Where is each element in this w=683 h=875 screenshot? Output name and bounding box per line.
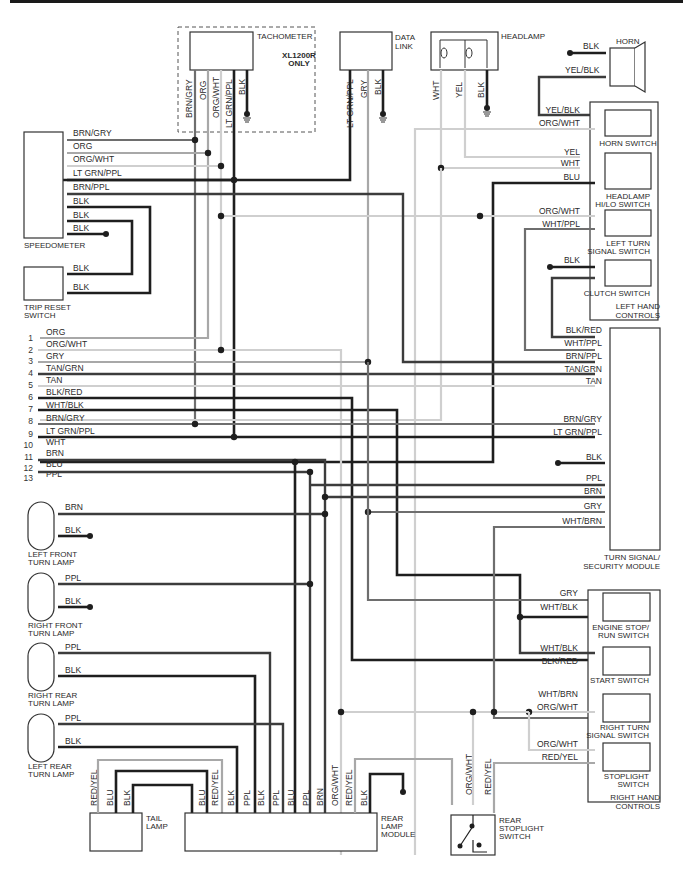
- ground-symbol-icon: [483, 112, 491, 116]
- wire-org-tach: [40, 70, 208, 338]
- svg-text:BRN/GRY: BRN/GRY: [563, 414, 602, 424]
- svg-text:LT GRN/PPL: LT GRN/PPL: [553, 427, 602, 437]
- svg-text:TURN LAMP: TURN LAMP: [28, 699, 74, 708]
- switch-contact: [470, 824, 475, 829]
- horn-box: [610, 48, 635, 86]
- svg-text:LT GRN/PPL: LT GRN/PPL: [46, 426, 95, 436]
- speedometer-label: SPEEDOMETER: [24, 241, 86, 250]
- splice: [322, 494, 328, 500]
- tail-pin-label: BLU: [105, 789, 115, 806]
- svg-text:8: 8: [28, 416, 33, 426]
- svg-text:BLK: BLK: [73, 210, 89, 220]
- svg-text:BLU: BLU: [197, 789, 207, 806]
- trip-reset-label-2: SWITCH: [24, 311, 56, 320]
- speedometer-box: [24, 132, 63, 238]
- clutch-switch-box: [605, 260, 651, 286]
- ground-rf: [87, 604, 93, 610]
- svg-text:WHT/PPL: WHT/PPL: [564, 338, 602, 348]
- svg-text:ORG: ORG: [46, 327, 65, 337]
- svg-text:WHT/BRN: WHT/BRN: [538, 689, 578, 699]
- svg-text:TAN/GRN: TAN/GRN: [564, 364, 602, 374]
- rhc-wire-labels: GRY WHT/BLK WHT/BLK BLK/RED WHT/BRN ORG/…: [537, 588, 578, 762]
- svg-text:BLU: BLU: [563, 172, 580, 182]
- splice: [322, 511, 328, 517]
- svg-text:5: 5: [28, 380, 33, 390]
- splice: [307, 469, 313, 475]
- splice: [218, 213, 224, 219]
- svg-text:9: 9: [28, 429, 33, 439]
- svg-text:WHT/BLK: WHT/BLK: [46, 400, 84, 410]
- left-turn-label-2: SIGNAL SWITCH: [587, 247, 650, 256]
- svg-text:BRN: BRN: [65, 502, 83, 512]
- svg-text:WHT/BLK: WHT/BLK: [540, 602, 578, 612]
- svg-text:ORG/WHT: ORG/WHT: [330, 765, 340, 806]
- splice: [517, 614, 523, 620]
- trip-wire-label: BLK: [73, 282, 89, 292]
- ground-clutch: [547, 264, 553, 270]
- svg-text:BRN/PPL: BRN/PPL: [566, 351, 603, 361]
- lhc-label-2: CONTROLS: [616, 311, 660, 320]
- svg-text:GRY: GRY: [46, 351, 65, 361]
- ground-tssm: [555, 460, 561, 466]
- svg-text:6: 6: [28, 392, 33, 402]
- svg-text:7: 7: [28, 404, 33, 414]
- rlm-label-3: MODULE: [381, 830, 415, 839]
- svg-text:BLK: BLK: [237, 79, 247, 95]
- svg-text:13: 13: [24, 473, 34, 483]
- xl-note-2: ONLY: [288, 59, 310, 68]
- splice: [231, 434, 237, 440]
- svg-text:RED/YEL: RED/YEL: [210, 769, 220, 806]
- rhc-label-2: CONTROLS: [616, 802, 660, 811]
- right-turn-label-2: SIGNAL SWITCH: [586, 731, 649, 740]
- wire-blk-tail: [133, 785, 192, 813]
- stoplight-switch-box: [603, 743, 650, 771]
- svg-text:12: 12: [24, 463, 34, 473]
- svg-text:BLK: BLK: [586, 452, 602, 462]
- svg-text:BLK: BLK: [65, 525, 81, 535]
- rear-lamp-module-box: [185, 813, 377, 851]
- wiring-diagram: TACHOMETER XL1200R ONLY BRN/GRY ORG ORG/…: [0, 0, 683, 875]
- horn-switch-label: HORN SWITCH: [599, 139, 657, 148]
- trip-reset-box: [24, 267, 63, 300]
- ground-symbol-icon: [243, 118, 251, 122]
- start-switch-box: [603, 647, 650, 675]
- svg-text:TAN: TAN: [586, 376, 602, 386]
- connector-row-numbers: 1 2 3 4 5 6 7 8 9 10 11 12 13: [24, 333, 34, 483]
- data-link-label: DATA: [395, 33, 416, 42]
- svg-text:ORG: ORG: [198, 81, 208, 100]
- svg-text:GRY: GRY: [560, 588, 579, 598]
- horn-pin-label: BLK: [583, 41, 599, 51]
- ground-datalink: [380, 111, 386, 117]
- svg-text:GRY: GRY: [584, 501, 603, 511]
- svg-text:YEL: YEL: [564, 147, 580, 157]
- svg-text:RED/YEL: RED/YEL: [344, 769, 354, 806]
- svg-text:BLK: BLK: [73, 196, 89, 206]
- splice: [192, 137, 198, 143]
- ground-rlm: [400, 789, 406, 795]
- svg-text:BRN/GRY: BRN/GRY: [73, 128, 112, 138]
- svg-text:BLK: BLK: [359, 790, 369, 806]
- svg-text:BRN: BRN: [46, 448, 64, 458]
- wire-blk-rlm-ground: [370, 774, 403, 813]
- headlamp-pin-label: YEL: [454, 82, 464, 98]
- tachometer-label: TACHOMETER: [257, 32, 313, 41]
- svg-text:ORG/WHT: ORG/WHT: [539, 118, 580, 128]
- clutch-label: CLUTCH SWITCH: [584, 289, 650, 298]
- svg-text:TURN LAMP: TURN LAMP: [28, 558, 74, 567]
- svg-text:BLK/RED: BLK/RED: [542, 656, 578, 666]
- svg-text:10: 10: [24, 440, 34, 450]
- wire-gry-to-engine-stop: [368, 362, 595, 600]
- start-label: START SWITCH: [590, 676, 649, 685]
- svg-text:ORG/WHT: ORG/WHT: [211, 77, 221, 118]
- svg-text:ORG/WHT: ORG/WHT: [539, 206, 580, 216]
- svg-text:WHT: WHT: [46, 437, 65, 447]
- svg-text:11: 11: [24, 452, 33, 462]
- right-front-turn-lamp: RIGHT FRONT TURN LAMP PPL BLK: [28, 573, 83, 638]
- svg-text:WHT/PPL: WHT/PPL: [542, 219, 580, 229]
- svg-text:BRN: BRN: [584, 486, 602, 496]
- svg-text:BLK/RED: BLK/RED: [46, 387, 82, 397]
- data-link-box: [340, 32, 392, 70]
- ground-headlamp: [484, 105, 490, 111]
- splice: [338, 709, 344, 715]
- ground-speedo: [103, 231, 109, 237]
